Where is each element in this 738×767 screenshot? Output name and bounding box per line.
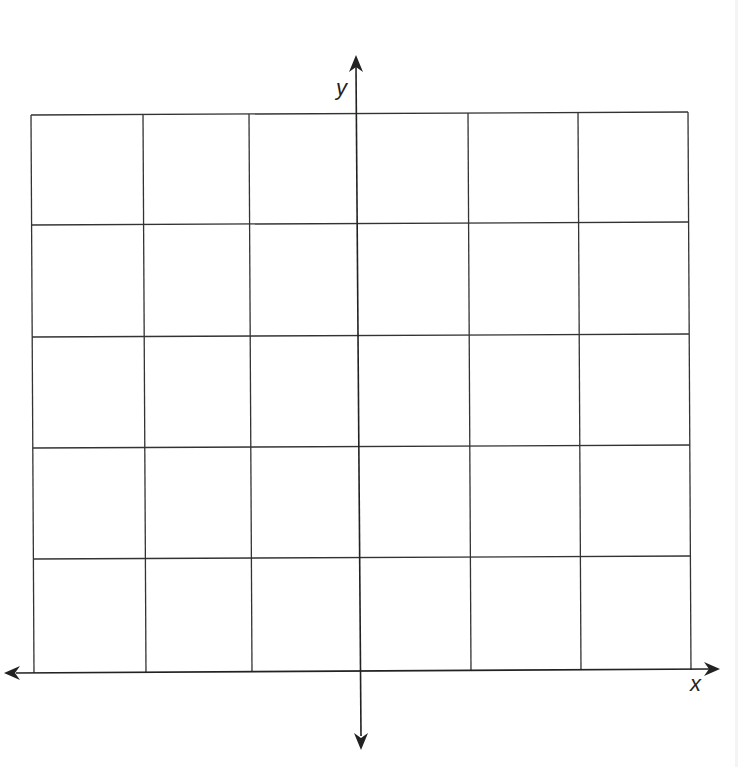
y-axis-label: y (334, 75, 349, 100)
grid-horizontal-lines (31, 112, 690, 559)
grid-vertical-line (468, 113, 471, 671)
grid-horizontal-line (33, 445, 690, 448)
grid-vertical-lines (31, 112, 691, 673)
grid-vertical-line (249, 114, 252, 672)
coordinate-grid-diagram: x y (0, 0, 738, 767)
grid-horizontal-line (33, 556, 690, 559)
grid-horizontal-line (31, 112, 688, 115)
grid-vertical-line (143, 114, 146, 673)
x-axis: x (4, 662, 720, 696)
grid-vertical-line (578, 112, 581, 670)
grid-vertical-line (31, 115, 34, 673)
grid-horizontal-line (32, 334, 689, 337)
x-axis-label: x (689, 671, 702, 696)
grid-vertical-line (688, 112, 691, 670)
y-axis: y (334, 55, 368, 750)
grid-horizontal-line (31, 222, 688, 225)
